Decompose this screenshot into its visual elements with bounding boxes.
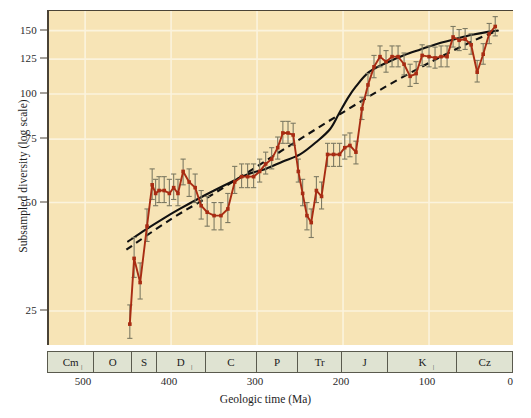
period-label: J <box>363 356 367 368</box>
period-label: S <box>141 356 147 368</box>
period-cell-p: P <box>257 352 298 372</box>
plot-area <box>47 10 513 345</box>
figure-container: 150125100755025 Subsampled diversity (lo… <box>0 0 531 418</box>
diversity-line <box>130 26 495 324</box>
y-tick-mark-75 <box>40 138 47 139</box>
x-axis-title: Geologic time (Ma) <box>0 393 531 405</box>
period-cell-tr: Tr <box>298 352 342 372</box>
y-tick-label-25: 25 <box>26 304 37 316</box>
period-subdivision-tick: | <box>81 363 82 371</box>
period-cell-c: C <box>206 352 257 372</box>
x-tick-label-300: 300 <box>247 375 264 387</box>
period-label: Cm <box>63 356 79 368</box>
x-tick-label-100: 100 <box>419 375 436 387</box>
period-cell-cz: Cz <box>457 352 512 372</box>
x-axis: 5004003002001000 <box>0 375 531 391</box>
period-label: Cz <box>479 356 491 368</box>
x-tick-label-0: 0 <box>508 375 514 387</box>
gridlines <box>49 11 513 345</box>
error-bars <box>127 17 498 339</box>
period-subdivision-tick: | <box>433 363 434 371</box>
period-cell-s: S <box>132 352 157 372</box>
x-tick-label-500: 500 <box>75 375 92 387</box>
period-cell-o: O <box>94 352 132 372</box>
y-tick-mark-25 <box>40 310 47 311</box>
y-tick-mark-125 <box>40 58 47 59</box>
figure-caption <box>0 409 531 418</box>
period-label: D <box>177 356 185 368</box>
period-label: Tr <box>315 356 325 368</box>
period-cell-j: J <box>342 352 388 372</box>
period-label: P <box>274 356 280 368</box>
x-tick-label-200: 200 <box>333 375 350 387</box>
chart-canvas <box>49 11 513 345</box>
period-label: O <box>109 356 117 368</box>
y-axis-title: Subsampled diversity (log scale) <box>17 61 29 291</box>
period-label: C <box>227 356 234 368</box>
y-tick-mark-100 <box>40 93 47 94</box>
period-cell-k: K| <box>388 352 457 372</box>
period-subdivision-tick: | <box>191 363 192 371</box>
period-cell-d: D| <box>157 352 206 372</box>
y-tick-label-150: 150 <box>20 24 37 36</box>
period-cell-cm: Cm| <box>48 352 94 372</box>
geologic-period-band: Cm|OSD|CPTrJK|Cz <box>47 351 513 373</box>
y-tick-mark-50 <box>40 201 47 202</box>
y-tick-mark-150 <box>40 29 47 30</box>
x-tick-label-400: 400 <box>161 375 178 387</box>
period-label: K <box>418 356 426 368</box>
